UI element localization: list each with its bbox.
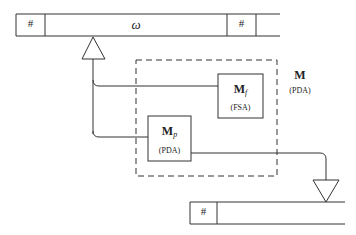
component-f-letter: M — [234, 82, 245, 96]
machine-type: (PDA) — [280, 86, 320, 95]
input-left-marker: # — [16, 17, 45, 29]
component-f-subscript: f — [245, 88, 247, 97]
component-f-name: Mf — [218, 82, 263, 97]
component-f-type: (FSA) — [218, 103, 263, 112]
input-right-marker: # — [227, 17, 256, 29]
output-left-marker: # — [190, 205, 217, 217]
machine-name: M — [288, 68, 312, 83]
input-content: ω — [45, 17, 227, 33]
component-p-subscript: p — [173, 130, 177, 139]
component-p-letter: M — [162, 124, 173, 138]
input-head-icon — [82, 37, 105, 59]
output-head-icon — [313, 180, 339, 202]
component-p-name: Mp — [148, 124, 191, 139]
component-p-type: (PDA) — [148, 146, 191, 155]
diagram-canvas — [0, 0, 356, 235]
